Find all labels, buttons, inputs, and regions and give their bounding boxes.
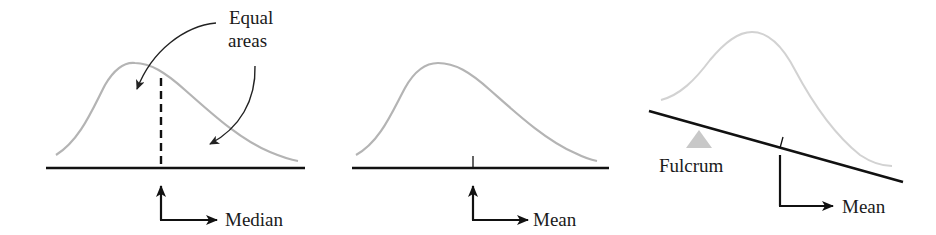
median-panel: Equal areas Median [46, 7, 305, 230]
balance-panel: Fulcrum Mean [649, 32, 903, 217]
fulcrum-label: Fulcrum [659, 155, 724, 176]
mean-label: Mean [533, 209, 577, 230]
equal-areas-label-line1: Equal [229, 7, 273, 28]
equal-areas-label-line2: areas [228, 30, 267, 51]
mean-panel: Mean [352, 63, 609, 230]
equal-areas-arrow-left [137, 23, 216, 89]
mean-label: Mean [842, 196, 886, 217]
fulcrum-triangle-icon [686, 130, 712, 148]
median-mean-diagram: Equal areas Median Mean Fulcrum Mean [0, 0, 936, 235]
skewed-distribution-curve [56, 63, 298, 161]
equal-areas-arrow-right [210, 66, 255, 144]
median-label: Median [225, 209, 284, 230]
mean-tick-mark [780, 137, 783, 148]
skewed-distribution-curve [356, 63, 597, 161]
